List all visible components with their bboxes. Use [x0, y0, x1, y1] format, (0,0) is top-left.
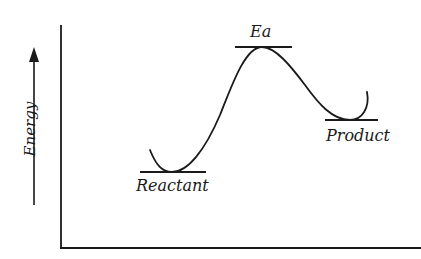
activation-energy-label: Ea [250, 22, 271, 41]
y-axis-label: Energy [21, 99, 39, 159]
reaction-curve [150, 47, 368, 172]
energy-arrow-head-icon [29, 47, 39, 62]
reactant-label: Reactant [136, 176, 209, 195]
product-label: Product [326, 126, 390, 145]
